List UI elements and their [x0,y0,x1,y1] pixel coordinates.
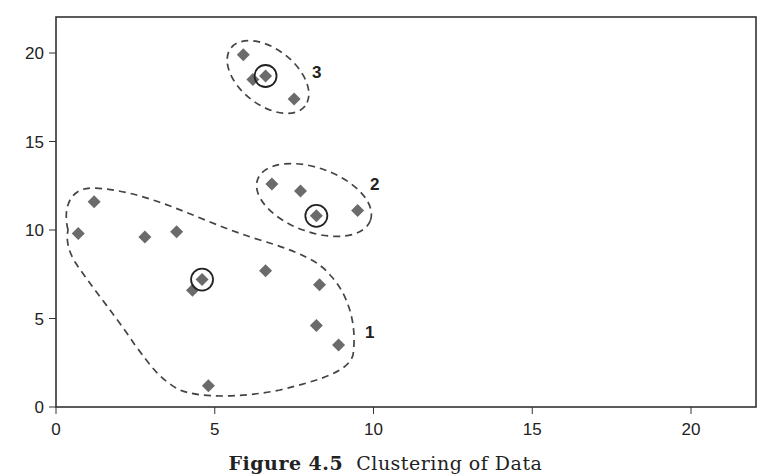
cluster-boundaries [66,26,381,396]
x-tick-label: 5 [210,420,219,439]
axis-ticks: 0510152005101520 [25,44,700,439]
x-tick-label: 20 [682,420,701,439]
data-points [72,48,364,392]
figure-caption: Figure 4.5 Clustering of Data [0,452,771,474]
x-tick-label: 15 [523,420,542,439]
y-tick-label: 15 [25,133,44,152]
scatter-chart: 0510152005101520 123 [0,0,771,476]
diamond-marker [138,231,151,244]
diamond-marker [288,93,301,106]
diamond-marker [310,209,323,222]
cluster-label-1: 1 [365,323,374,342]
diamond-marker [310,319,323,332]
cluster-1-boundary [66,188,354,396]
diamond-marker [265,177,278,190]
diamond-marker [259,70,272,83]
diamond-marker [202,379,215,392]
diamond-marker [332,339,345,352]
diamond-marker [259,264,272,277]
diamond-marker [313,278,326,291]
diamond-marker [88,195,101,208]
x-tick-label: 10 [364,420,383,439]
y-tick-label: 0 [35,398,44,417]
diamond-marker [351,204,364,217]
diamond-marker [294,185,307,198]
diamond-marker [170,225,183,238]
diamond-marker [196,273,209,286]
caption-text: Clustering of Data [356,452,542,474]
diamond-marker [237,48,250,61]
caption-prefix: Figure 4.5 [229,452,344,474]
diamond-marker [72,227,85,240]
x-tick-label: 0 [51,420,60,439]
cluster-label-2: 2 [370,175,379,194]
y-tick-label: 5 [35,310,44,329]
y-tick-label: 20 [25,44,44,63]
cluster-2-boundary [247,149,382,250]
plot-frame [56,17,756,407]
y-tick-label: 10 [25,221,44,240]
cluster-label-3: 3 [312,63,321,82]
